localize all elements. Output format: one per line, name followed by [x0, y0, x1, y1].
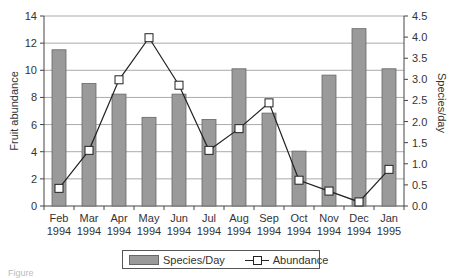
x-axis-label-year: 1994: [77, 225, 101, 237]
chart-plot: 024681012140.00.51.01.52.02.53.03.54.04.…: [0, 0, 452, 250]
x-axis-label-month: Feb: [50, 212, 69, 224]
abundance-marker-icon: [145, 34, 153, 42]
bar-species-day: [172, 94, 186, 206]
abundance-marker-icon: [295, 176, 303, 184]
abundance-marker-icon: [175, 81, 183, 89]
abundance-marker-icon: [325, 187, 333, 195]
abundance-marker-icon: [385, 165, 393, 173]
x-axis-label-year: 1994: [137, 225, 161, 237]
abundance-marker-icon: [355, 198, 363, 206]
abundance-marker-icon: [235, 125, 243, 133]
right-axis-tick-label: 2.5: [412, 94, 427, 106]
bar-species-day: [142, 117, 156, 206]
left-axis-tick-label: 0: [31, 200, 37, 212]
legend-item-abundance: Abundance: [231, 254, 329, 266]
right-axis-tick-label: 4.0: [412, 31, 427, 43]
x-axis-label-year: 1994: [347, 225, 371, 237]
bar-species-day: [232, 69, 246, 206]
x-axis-label-month: Jan: [380, 212, 398, 224]
figure-caption: Figure: [8, 268, 34, 278]
abundance-marker-icon: [115, 76, 123, 84]
bar-species-day: [352, 29, 366, 206]
x-axis-label-month: Sep: [259, 212, 279, 224]
legend-item-species-day: Species/Day: [129, 254, 225, 266]
right-axis-tick-label: 3.0: [412, 73, 427, 85]
right-axis-tick-label: 3.5: [412, 52, 427, 64]
x-axis-label-year: 1994: [257, 225, 281, 237]
x-axis-label-year: 1995: [377, 225, 401, 237]
bar-species-day: [382, 69, 396, 206]
x-axis-label-year: 1994: [107, 225, 131, 237]
left-axis-tick-label: 6: [31, 119, 37, 131]
left-axis-tick-label: 10: [25, 64, 37, 76]
left-axis-tick-label: 12: [25, 37, 37, 49]
x-axis-label-month: Jul: [202, 212, 216, 224]
legend-label-species-day: Species/Day: [163, 254, 225, 266]
bar-species-day: [322, 75, 336, 206]
x-axis-label-year: 1994: [227, 225, 251, 237]
x-axis-label-month: Mar: [80, 212, 99, 224]
bar-species-day: [82, 84, 96, 206]
left-axis-tick-label: 14: [25, 10, 37, 22]
x-axis-label-month: Dec: [349, 212, 369, 224]
x-axis-label-month: Nov: [319, 212, 339, 224]
x-axis-label-month: Aug: [229, 212, 249, 224]
left-axis-tick-label: 8: [31, 91, 37, 103]
left-axis-title: Fruit abundance: [8, 71, 20, 151]
bar-species-day: [112, 94, 126, 206]
line-marker-swatch-icon: [245, 255, 269, 265]
x-axis-label-year: 1994: [317, 225, 341, 237]
right-axis-title: Species/day: [436, 73, 448, 133]
legend-label-abundance: Abundance: [273, 254, 329, 266]
x-axis-label-year: 1994: [167, 225, 191, 237]
x-axis-label-year: 1994: [197, 225, 221, 237]
left-axis-tick-label: 4: [31, 146, 37, 158]
x-axis-label-month: Oct: [290, 212, 307, 224]
x-axis-label-year: 1994: [47, 225, 71, 237]
right-axis-tick-label: 0.0: [412, 200, 427, 212]
abundance-marker-icon: [205, 146, 213, 154]
left-axis-tick-label: 2: [31, 173, 37, 185]
right-axis-tick-label: 0.5: [412, 179, 427, 191]
bar-species-day: [262, 113, 276, 206]
right-axis-tick-label: 4.5: [412, 10, 427, 22]
right-axis-tick-label: 1.5: [412, 137, 427, 149]
bar-swatch-icon: [129, 255, 159, 265]
right-axis-tick-label: 2.0: [412, 116, 427, 128]
abundance-marker-icon: [85, 146, 93, 154]
legend: Species/Day Abundance: [122, 250, 320, 269]
x-axis-label-year: 1994: [287, 225, 311, 237]
bar-species-day: [202, 119, 216, 206]
abundance-marker-icon: [55, 184, 63, 192]
abundance-marker-icon: [265, 99, 273, 107]
x-axis-label-month: Apr: [110, 212, 127, 224]
right-axis-tick-label: 1.0: [412, 158, 427, 170]
x-axis-label-month: Jun: [170, 212, 188, 224]
x-axis-label-month: May: [139, 212, 160, 224]
abundance-line: [59, 38, 389, 202]
